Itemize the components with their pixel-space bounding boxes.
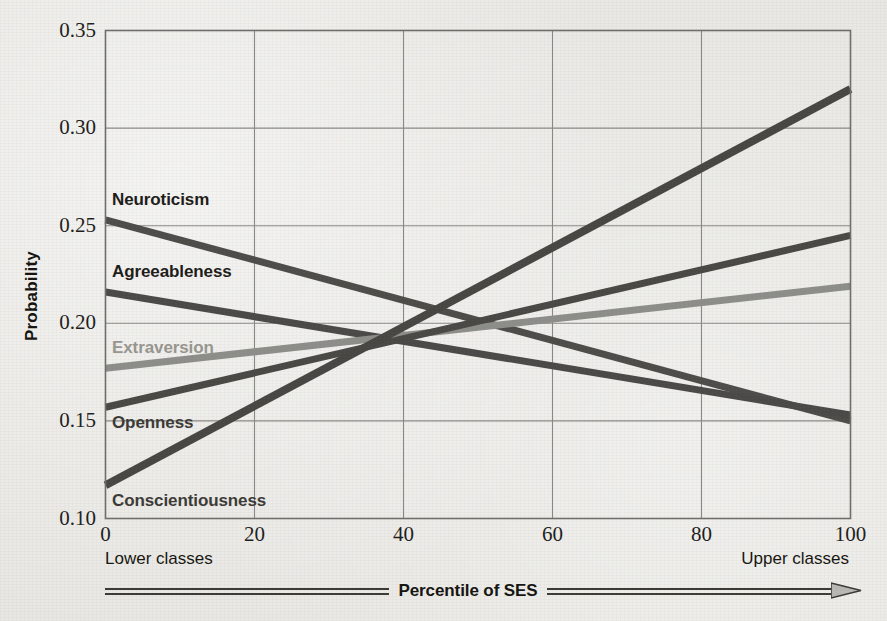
x-tick-label: 40 <box>374 522 434 547</box>
y-tick-label: 0.15 <box>20 408 96 433</box>
x-tick-label: 0 <box>76 522 136 547</box>
x-axis-title: Percentile of SES <box>389 581 546 601</box>
axis-rule-right <box>547 588 831 595</box>
y-tick-label: 0.30 <box>20 115 96 140</box>
y-tick-label: 0.35 <box>20 18 96 43</box>
x-tick-label: 80 <box>672 522 732 547</box>
series-label-agreeableness: Agreeableness <box>112 262 232 282</box>
x-axis-title-row: Percentile of SES <box>105 578 865 604</box>
series-label-conscientiousness: Conscientiousness <box>112 491 266 511</box>
lower-classes-note: Lower classes <box>105 549 213 569</box>
figure-panel: 0.100.150.200.250.300.35 020406080100 Pr… <box>0 0 887 621</box>
y-axis-title: Probability <box>22 236 42 356</box>
series-lines-group <box>106 89 851 485</box>
x-tick-label: 100 <box>821 522 881 547</box>
axis-rule-left <box>105 588 389 595</box>
series-label-extraversion: Extraversion <box>112 338 214 358</box>
series-label-neuroticism: Neuroticism <box>112 190 209 210</box>
x-tick-label: 20 <box>225 522 285 547</box>
series-label-openness: Openness <box>112 413 193 433</box>
upper-classes-note: Upper classes <box>741 549 849 569</box>
arrow-right-icon <box>831 578 865 604</box>
series-line-conscientiousness <box>106 89 851 485</box>
y-tick-label: 0.25 <box>20 213 96 238</box>
x-tick-label: 60 <box>523 522 583 547</box>
